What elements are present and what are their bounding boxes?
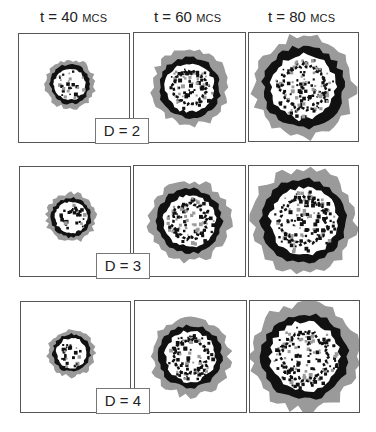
diffusion-label-d2: D = 2 bbox=[95, 118, 149, 144]
time-label: t = 80 bbox=[268, 8, 306, 25]
cell-colony-image bbox=[250, 301, 359, 412]
panel-d2-t80 bbox=[248, 32, 359, 142]
column-title-t40: t = 40 MCS bbox=[40, 8, 107, 25]
panel-d3-t80 bbox=[248, 165, 359, 277]
time-unit: MCS bbox=[310, 12, 335, 24]
time-unit: MCS bbox=[196, 12, 221, 24]
diffusion-label-d4: D = 4 bbox=[96, 388, 150, 414]
time-label: t = 60 bbox=[154, 8, 192, 25]
cell-colony-image bbox=[134, 166, 245, 276]
column-title-t80: t = 80 MCS bbox=[268, 8, 335, 25]
cell-colony-image bbox=[135, 301, 246, 412]
cell-colony-image bbox=[249, 166, 358, 276]
panel-d4-t60 bbox=[134, 300, 247, 413]
panel-d2-t60 bbox=[133, 32, 246, 143]
time-label: t = 40 bbox=[40, 8, 78, 25]
panel-d4-t80 bbox=[249, 300, 360, 413]
cell-colony-image bbox=[249, 33, 358, 141]
time-unit: MCS bbox=[82, 12, 107, 24]
cell-colony-image bbox=[134, 33, 245, 142]
diffusion-label-d3: D = 3 bbox=[96, 253, 150, 279]
column-title-t60: t = 60 MCS bbox=[154, 8, 221, 25]
